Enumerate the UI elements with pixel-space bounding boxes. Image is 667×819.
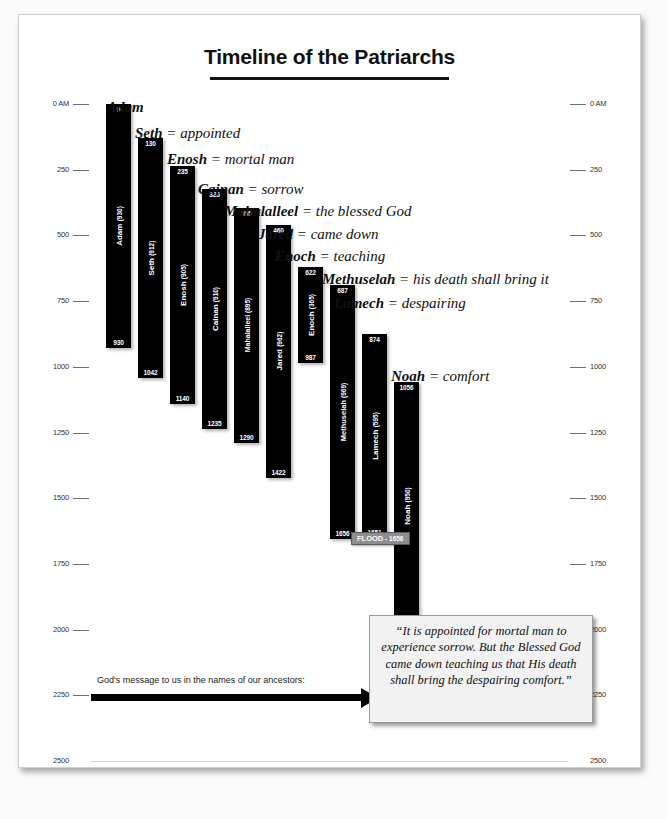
lifespan-bar-methuselah[interactable]: 6871656Methuselah (969) <box>330 285 355 540</box>
bar-death-year: 987 <box>298 354 323 361</box>
callout-methuselah: Methuselah = his death shall bring it <box>322 271 549 288</box>
callout-name: Enoch <box>275 248 316 264</box>
callout-meaning: appointed <box>180 125 240 141</box>
lifespan-bar-adam[interactable]: 0930Adam (930) <box>106 104 131 348</box>
axis-tick-left-0-am: 0 AM <box>27 99 69 108</box>
callout-mahalalleel: Mahalalleel = the blessed God <box>224 203 412 220</box>
axis-tick-right-1000: 1000 <box>590 362 632 371</box>
bar-death-year: 1422 <box>266 469 291 476</box>
axis-tick-right-0-am: 0 AM <box>590 99 632 108</box>
callout-meaning: despairing <box>402 295 466 311</box>
lifespan-bar-seth[interactable]: 1301042Seth (912) <box>138 138 163 378</box>
bar-label-enosh: Enosh (905) <box>178 264 187 306</box>
callout-noah: Noah = comfort <box>391 368 489 385</box>
callout-lamech: Lamech = despairing <box>334 295 466 312</box>
flood-year: - 1656 <box>383 535 403 542</box>
tick-mark-left <box>73 564 89 565</box>
callout-jared: Jared = came down <box>258 226 379 243</box>
tick-mark-right <box>570 564 586 565</box>
tick-mark-right <box>570 498 586 499</box>
bar-death-year: 1042 <box>138 369 163 376</box>
bar-label-noah: Noah (950) <box>402 488 411 525</box>
bar-death-year: 1140 <box>170 395 195 402</box>
callout-name: Lamech <box>334 295 384 311</box>
callout-equals: = <box>207 151 225 167</box>
callout-enosh: Enosh = mortal man <box>167 151 294 168</box>
callout-adam: Adam <box>107 99 144 116</box>
callout-meaning: his death shall bring it <box>413 271 549 287</box>
callout-name: Jared <box>258 226 293 242</box>
callout-meaning: came down <box>311 226 379 242</box>
callout-name: Adam <box>107 99 144 115</box>
quote-box: “It is appointed for mortal man to exper… <box>369 615 593 723</box>
tick-mark-right <box>570 170 586 171</box>
axis-tick-right-2500: 2500 <box>590 756 632 765</box>
tick-mark-left <box>73 433 89 434</box>
callout-meaning: sorrow <box>261 181 303 197</box>
tick-mark-right <box>570 301 586 302</box>
tick-mark-left <box>73 367 89 368</box>
axis-tick-right-2250: 2250 <box>590 690 632 699</box>
lifespan-bar-cainan[interactable]: 3251235Cainan (910) <box>202 189 227 428</box>
flood-label: FLOOD <box>357 534 383 543</box>
lifespan-bar-enosh[interactable]: 2351140Enosh (905) <box>170 166 195 404</box>
axis-tick-left-1500: 1500 <box>27 493 69 502</box>
axis-tick-right-250: 250 <box>590 165 632 174</box>
callout-name: Noah <box>391 368 425 384</box>
axis-tick-left-500: 500 <box>27 230 69 239</box>
callout-name: Seth <box>135 125 163 141</box>
bar-birth-year: 874 <box>362 336 387 343</box>
arrow-shaft <box>91 694 361 701</box>
axis-tick-right-1500: 1500 <box>590 493 632 502</box>
callout-equals: = <box>395 271 413 287</box>
tick-mark-left <box>73 498 89 499</box>
callout-equals: = <box>384 295 402 311</box>
callout-equals: = <box>298 203 316 219</box>
axis-tick-right-1750: 1750 <box>590 559 632 568</box>
callout-meaning: mortal man <box>225 151 295 167</box>
callout-name: Cainan <box>198 181 244 197</box>
bar-death-year: 1235 <box>202 420 227 427</box>
tick-mark-left <box>73 695 89 696</box>
lifespan-bar-enoch[interactable]: 622987Enoch (365) <box>298 267 323 363</box>
callout-cainan: Cainan = sorrow <box>198 181 303 198</box>
tick-mark-left <box>73 104 89 105</box>
callout-equals: = <box>293 226 311 242</box>
callout-name: Mahalalleel <box>224 203 298 219</box>
axis-tick-left-2000: 2000 <box>27 625 69 634</box>
axis-baseline <box>91 761 568 762</box>
callout-name: Methuselah <box>322 271 395 287</box>
axis-tick-left-2500: 2500 <box>27 756 69 765</box>
lifespan-bar-lamech[interactable]: 8741651Lamech (595) <box>362 334 387 538</box>
callout-meaning: the blessed God <box>316 203 412 219</box>
axis-tick-left-1250: 1250 <box>27 428 69 437</box>
document-page: Timeline of the Patriarchs 0 AM0 AM25025… <box>18 14 641 768</box>
callout-enoch: Enoch = teaching <box>275 248 385 265</box>
bar-label-adam: Adam (930) <box>114 206 123 246</box>
tick-mark-left <box>73 235 89 236</box>
axis-tick-right-1250: 1250 <box>590 428 632 437</box>
callout-meaning: comfort <box>443 368 490 384</box>
axis-tick-left-2250: 2250 <box>27 690 69 699</box>
callout-equals: = <box>163 125 181 141</box>
callout-equals: = <box>244 181 262 197</box>
callout-seth: Seth = appointed <box>135 125 240 142</box>
bar-death-year: 1290 <box>234 434 259 441</box>
axis-tick-right-750: 750 <box>590 296 632 305</box>
bar-label-mahalalleel: Mahalalleel (895) <box>243 298 250 352</box>
lifespan-bar-noah[interactable]: 10562006Noah (950) <box>394 382 419 632</box>
lifespan-bar-mahalalleel[interactable]: 3951290Mahalalleel (895) <box>234 208 259 443</box>
tick-mark-right <box>570 235 586 236</box>
bar-death-year: 930 <box>106 339 131 346</box>
tick-mark-left <box>73 301 89 302</box>
axis-tick-left-1750: 1750 <box>27 559 69 568</box>
axis-tick-left-750: 750 <box>27 296 69 305</box>
callout-name: Enosh <box>167 151 207 167</box>
callout-meaning: teaching <box>333 248 385 264</box>
flood-marker: FLOOD - 1656 <box>351 532 410 545</box>
tick-mark-right <box>570 367 586 368</box>
tick-mark-left <box>73 630 89 631</box>
arrow-label: God's message to us in the names of our … <box>97 675 305 685</box>
axis-tick-left-250: 250 <box>27 165 69 174</box>
bar-label-cainan: Cainan (910) <box>210 287 219 331</box>
